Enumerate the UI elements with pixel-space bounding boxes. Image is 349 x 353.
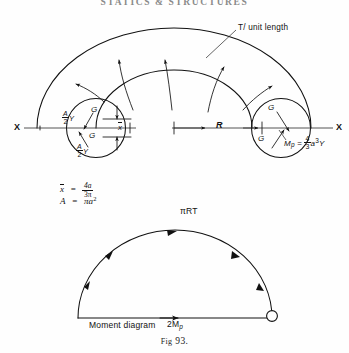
area-equation-lhs: A	[60, 196, 66, 206]
area-equation-exponent: 2	[93, 195, 96, 202]
left-centroid-symbol: x	[118, 122, 122, 132]
figure-caption: Fig 93.	[0, 336, 349, 346]
moment-base-symbol: 2M	[167, 319, 179, 329]
left-lower-stress-label: A 2 Y	[76, 143, 88, 158]
moment-base-subscript: p	[179, 323, 183, 330]
traction-arrow-3	[165, 60, 172, 110]
moment-diagram-group	[78, 230, 277, 321]
plastic-moment-equals: =	[297, 139, 302, 148]
moment-curve	[78, 230, 272, 318]
left-upper-stress-suffix: Y	[69, 114, 74, 123]
left-upper-stress-label: A 2 Y	[62, 110, 74, 125]
left-lower-stress-fraction: A 2	[76, 143, 83, 158]
traction-arrow-4	[208, 67, 224, 112]
radius-label: R	[216, 121, 223, 130]
centroid-equation-lhs: x	[60, 184, 64, 195]
left-lower-force-label: G	[89, 132, 95, 140]
figure-container: STATICS & STRUCTURES	[0, 0, 349, 353]
left-centroid-label: x	[118, 122, 122, 132]
axis-label-right: X	[336, 123, 342, 132]
moment-arc-arrow-5	[256, 283, 264, 291]
right-upper-force-label: G	[268, 104, 274, 112]
moment-base-label: 2Mp	[167, 320, 183, 330]
moment-diagram-title: Moment diagram	[89, 321, 156, 330]
left-lower-stress-suffix: Y	[83, 147, 88, 156]
moment-arc-arrow-3	[167, 230, 177, 236]
axis-label-left: X	[14, 123, 20, 132]
right-lower-force-label: G	[258, 135, 264, 143]
area-equation-rhs: πa	[84, 196, 93, 206]
traction-note-label: T/ unit length	[238, 24, 288, 32]
left-upper-force-label: G	[91, 106, 97, 114]
figure-caption-number: 93.	[175, 336, 188, 346]
area-equation-equals: =	[68, 196, 81, 206]
plastic-moment-subscript: p	[291, 141, 295, 148]
outer-arc-group	[37, 28, 311, 128]
centroid-equation-equals: =	[67, 184, 80, 194]
plastic-moment-equation: Mp = 4 3 a3Y	[284, 135, 325, 150]
moment-apex-label: πRT	[180, 207, 198, 216]
plastic-moment-yield: Y	[319, 139, 325, 148]
plastic-moment-symbol: M	[284, 139, 291, 148]
figure-caption-prefix: Fig	[161, 337, 173, 346]
area-equation: A = πa2	[60, 196, 97, 206]
hinge-node	[267, 311, 278, 322]
outer-arc	[37, 28, 311, 128]
left-upper-stress-fraction: A 2	[62, 110, 69, 125]
traction-arrow-group	[76, 60, 272, 112]
figure-canvas	[0, 0, 349, 353]
moment-arc-arrow-2	[105, 251, 113, 260]
